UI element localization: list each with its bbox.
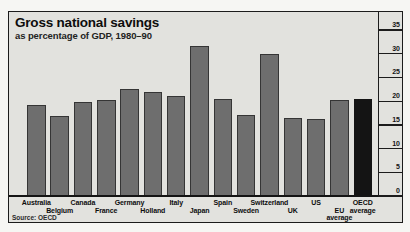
x-axis-baseline [9,195,378,197]
y-tick-label-35: 35 [379,21,400,28]
bar-eu-average [330,100,349,196]
bar-us [307,119,326,196]
y-tick-label-25: 25 [379,68,400,75]
bar-belgium [50,116,69,196]
x-label-germany: Germany [115,199,145,207]
x-label-france: France [95,207,117,215]
y-tick-label-10: 10 [379,140,400,147]
bar-germany [120,89,139,196]
y-tick-35 [378,29,403,30]
bar-switzerland [260,54,279,196]
chart-title: Gross national savings [15,15,159,30]
x-label-eu-average: EU average [327,207,353,222]
y-tick-25 [378,77,403,78]
bar-japan [190,46,209,196]
y-tick-label-30: 30 [379,45,400,52]
x-label-belgium: Belgium [46,207,73,215]
y-tick-label-20: 20 [379,92,400,99]
y-tick-30 [378,53,403,54]
source-note: Source: OECD [12,214,57,221]
y-tick-20 [378,101,403,102]
bar-italy [167,96,186,196]
y-tick-15 [378,124,403,125]
y-tick-5 [378,172,403,173]
bar-uk [284,118,303,196]
x-label-oecd-average: OECD average [350,199,376,214]
x-label-spain: Spain [214,199,233,207]
x-label-australia: Australia [22,199,51,207]
x-label-holland: Holland [140,207,165,215]
y-tick-10 [378,148,403,149]
bar-canada [74,102,93,196]
chart-subtitle: as percentage of GDP, 1980–90 [15,30,152,41]
bar-oecd-average [354,99,373,196]
x-label-switzerland: Switzerland [250,199,288,207]
x-label-italy: Italy [169,199,183,207]
x-label-uk: UK [288,207,298,215]
y-tick-label-15: 15 [379,116,400,123]
bar-spain [214,99,233,196]
y-tick-label-0: 0 [379,187,400,194]
y-tick-label-5: 5 [379,163,400,170]
x-label-canada: Canada [71,199,96,207]
bar-sweden [237,115,256,196]
x-label-us: US [311,199,321,207]
bar-australia [27,105,46,196]
bar-holland [144,92,163,196]
bar-france [97,100,116,196]
x-label-japan: Japan [190,207,210,215]
y-tick-0 [378,195,403,196]
figure: Gross national savings as percentage of … [0,0,410,232]
x-label-sweden: Sweden [233,207,259,215]
